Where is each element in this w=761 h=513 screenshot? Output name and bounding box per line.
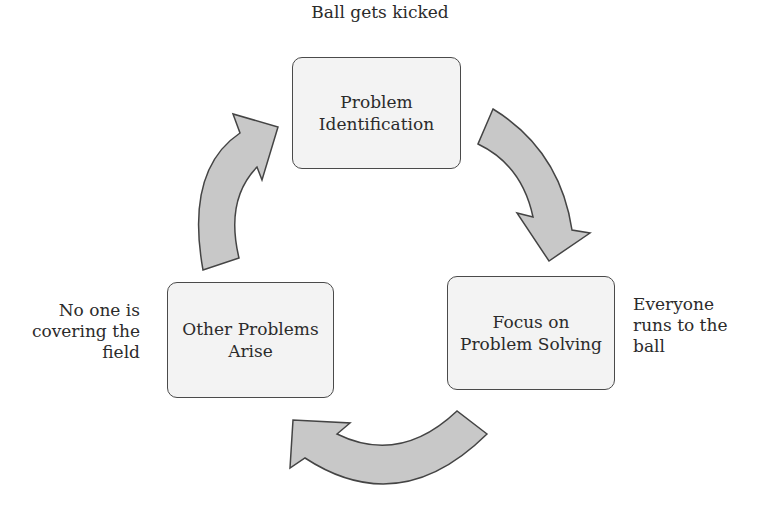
node-label-line: Identification <box>319 113 434 135</box>
node-label-line: Problem Solving <box>460 333 602 355</box>
arrow-other-to-identification-icon <box>199 114 278 270</box>
annotation-line: runs to the <box>633 315 727 336</box>
node-label-line: Problem <box>340 91 412 113</box>
annotation-line: No one is <box>20 300 140 321</box>
annotation-line: Everyone <box>633 294 727 315</box>
arrow-solving-to-other-icon <box>290 411 487 484</box>
annotation-line: ball <box>633 336 727 357</box>
node-label-line: Other Problems <box>182 318 318 340</box>
annotation-no-one-covering-field: No one is covering the field <box>20 300 140 363</box>
node-label-line: Focus on <box>493 311 570 333</box>
node-other-problems-arise: Other Problems Arise <box>167 282 334 398</box>
annotation-line: covering the <box>20 321 140 342</box>
node-focus-on-problem-solving: Focus on Problem Solving <box>447 276 615 390</box>
node-label-line: Arise <box>228 340 273 362</box>
annotation-everyone-runs-to-ball: Everyone runs to the ball <box>633 294 727 357</box>
node-problem-identification: Problem Identification <box>292 57 461 169</box>
annotation-ball-gets-kicked: Ball gets kicked <box>300 2 460 23</box>
annotation-line: Ball gets kicked <box>300 2 460 23</box>
annotation-line: field <box>20 342 140 363</box>
arrow-identification-to-solving-icon <box>478 109 590 261</box>
